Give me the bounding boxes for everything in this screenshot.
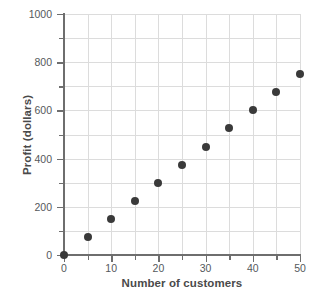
gridline-vertical	[182, 14, 183, 255]
x-axis-minor-tick	[182, 255, 183, 260]
gridline-vertical	[229, 14, 230, 255]
y-axis-tick	[57, 62, 64, 63]
x-axis-title: Number of customers	[64, 277, 300, 289]
y-axis-tick-label: 600	[34, 104, 52, 116]
x-axis-tick	[206, 255, 207, 262]
gridline-vertical	[253, 14, 254, 255]
x-axis-tick	[253, 255, 254, 262]
y-axis-tick-label: 0	[46, 249, 52, 261]
y-axis-minor-tick	[59, 231, 64, 232]
y-axis-minor-tick	[59, 135, 64, 136]
x-axis-tick-label: 50	[294, 262, 306, 274]
gridline-vertical	[158, 14, 159, 255]
data-point	[131, 197, 139, 205]
x-axis-tick-label: 20	[153, 262, 165, 274]
y-axis-minor-tick	[59, 38, 64, 39]
y-axis-tick	[57, 14, 64, 15]
x-axis-minor-tick	[229, 255, 230, 260]
plot-area	[64, 14, 300, 255]
data-point	[296, 70, 304, 78]
y-axis-tick-label: 400	[34, 153, 52, 165]
data-point	[107, 215, 115, 223]
y-axis-minor-tick	[59, 183, 64, 184]
y-axis-title: Profit (dollars)	[18, 15, 36, 255]
gridline-vertical	[276, 14, 277, 255]
gridline-vertical	[206, 14, 207, 255]
gridline-vertical	[135, 14, 136, 255]
x-axis-tick	[158, 255, 159, 262]
y-axis-tick-label: 1000	[29, 8, 52, 20]
y-axis-tick	[57, 207, 64, 208]
x-axis-minor-tick	[276, 255, 277, 260]
scatter-plot-figure: Profit (dollars) Number of customers 020…	[0, 0, 316, 298]
x-axis-tick-label: 10	[105, 262, 117, 274]
x-axis-minor-tick	[88, 255, 89, 260]
x-axis-minor-tick	[135, 255, 136, 260]
x-axis-tick-label: 40	[247, 262, 259, 274]
data-point	[84, 233, 92, 241]
y-axis-tick-label: 200	[34, 201, 52, 213]
data-point	[178, 161, 186, 169]
gridline-vertical	[88, 14, 89, 255]
y-axis-tick-label: 800	[34, 56, 52, 68]
y-axis-tick	[57, 159, 64, 160]
data-point	[202, 143, 210, 151]
data-point	[60, 251, 68, 259]
x-axis-tick-label: 0	[61, 262, 67, 274]
y-axis-tick	[57, 110, 64, 111]
x-axis-tick-label: 30	[200, 262, 212, 274]
x-axis-tick	[111, 255, 112, 262]
y-axis-minor-tick	[59, 86, 64, 87]
x-axis-tick	[300, 255, 301, 262]
gridline-vertical	[300, 14, 301, 255]
